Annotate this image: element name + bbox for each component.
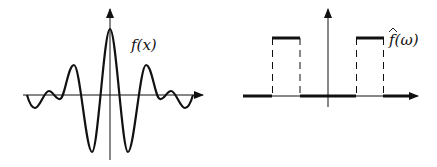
- right-plot: f(ω): [243, 9, 419, 107]
- f-x-label: f(x): [130, 36, 157, 54]
- f-hat-omega-label: f(ω): [388, 31, 419, 49]
- left-plot: f(x): [23, 9, 203, 160]
- fourier-diagram: f(x) f(ω): [0, 0, 437, 167]
